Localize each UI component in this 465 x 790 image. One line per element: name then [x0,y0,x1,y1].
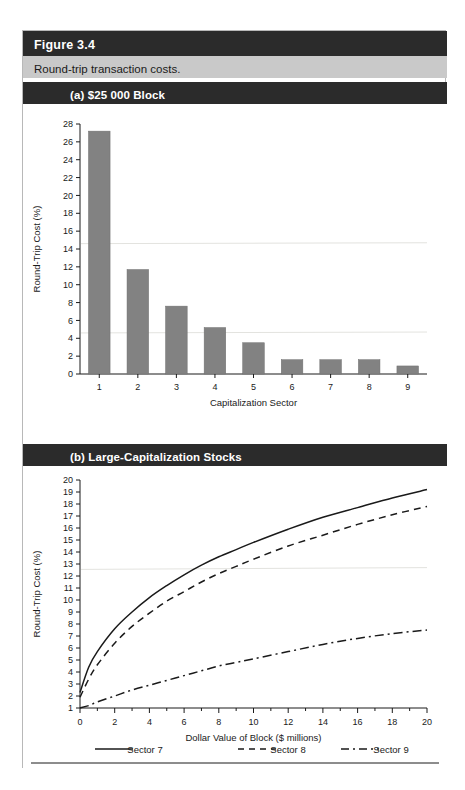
svg-text:20: 20 [63,191,73,201]
curve-sector-9 [80,630,427,708]
svg-text:8: 8 [68,298,73,308]
figure-caption-bar: Round-trip transaction costs. [23,56,447,78]
chart-a-xtick: 3 [174,382,179,392]
svg-text:3: 3 [68,679,73,689]
legend-label-sector-8: Sector 8 [270,744,305,755]
svg-text:22: 22 [63,173,73,183]
svg-text:4: 4 [68,667,73,677]
svg-text:4: 4 [68,333,73,343]
page-canvas: Figure 3.4 Round-trip transaction costs.… [0,0,465,790]
figure-number-label: Figure 3.4 [34,38,95,52]
bar-chart-svg: 0246810121416182022242628Round-Trip Cost… [23,104,447,444]
bar-sector-3 [166,306,188,374]
svg-text:5: 5 [68,655,73,665]
svg-text:19: 19 [63,487,73,497]
chart-b-xtick: 18 [387,717,397,727]
bar-sector-2 [127,270,149,374]
panel-a-header: (a) $25 000 Block [23,82,447,104]
chart-b-xtick: 16 [353,717,363,727]
curve-sector-8 [80,506,427,697]
svg-text:18: 18 [63,499,73,509]
chart-a-xtick: 6 [290,382,295,392]
line-chart-svg: 1234567891011121314151617181920Round-Tri… [23,466,447,769]
panel-a-label: (a) $25 000 Block [70,89,165,101]
svg-text:8: 8 [68,619,73,629]
chart-b-xlabel: Dollar Value of Block ($ millions) [185,732,321,743]
chart-b-xtick: 6 [182,717,187,727]
svg-text:1: 1 [68,703,73,713]
svg-text:24: 24 [63,155,73,165]
legend-label-sector-7: Sector 7 [127,744,162,755]
chart-a-xtick: 9 [405,382,410,392]
svg-text:2: 2 [68,351,73,361]
svg-text:16: 16 [63,226,73,236]
svg-text:26: 26 [63,137,73,147]
svg-text:10: 10 [63,595,73,605]
svg-text:6: 6 [68,643,73,653]
svg-text:12: 12 [63,571,73,581]
bar-sector-8 [358,360,380,374]
bar-sector-6 [281,360,303,374]
svg-text:16: 16 [63,523,73,533]
svg-text:13: 13 [63,559,73,569]
svg-text:0: 0 [68,369,73,379]
panel-b-header: (b) Large-Capitalization Stocks [23,444,447,466]
chart-b-xtick: 12 [283,717,293,727]
chart-b-line-chart: 1234567891011121314151617181920Round-Tri… [23,466,447,769]
chart-a-bar-chart: 0246810121416182022242628Round-Trip Cost… [23,104,447,444]
bar-sector-9 [397,366,419,374]
svg-text:20: 20 [63,475,73,485]
chart-b-xtick: 2 [112,717,117,727]
svg-text:17: 17 [63,511,73,521]
svg-text:28: 28 [63,119,73,129]
svg-text:15: 15 [63,535,73,545]
chart-a-xtick: 1 [97,382,102,392]
chart-a-xlabel: Capitalization Sector [210,397,297,408]
bar-sector-4 [204,328,226,374]
chart-a-xtick: 4 [212,382,217,392]
figure-number-bar: Figure 3.4 [23,31,447,56]
svg-text:9: 9 [68,607,73,617]
svg-text:14: 14 [63,547,73,557]
legend-label-sector-9: Sector 9 [373,744,408,755]
curve-sector-7 [80,490,427,693]
chart-b-xtick: 10 [248,717,258,727]
svg-text:14: 14 [63,244,73,254]
chart-a-xtick: 5 [251,382,256,392]
bar-sector-7 [320,360,342,374]
chart-a-ylabel: Round-Trip Cost (%) [31,206,42,293]
panel-b-label: (b) Large-Capitalization Stocks [70,451,242,463]
chart-a-xtick: 7 [328,382,333,392]
svg-text:2: 2 [68,691,73,701]
chart-b-xtick: 0 [77,717,82,727]
figure-caption-label: Round-trip transaction costs. [34,63,180,75]
chart-b-ylabel: Round-Trip Cost (%) [31,551,42,638]
svg-text:11: 11 [64,583,73,593]
svg-text:18: 18 [63,208,73,218]
svg-text:12: 12 [63,262,73,272]
bar-sector-5 [243,343,265,374]
chart-b-xtick: 20 [422,717,432,727]
svg-text:7: 7 [68,631,73,641]
chart-b-xtick: 14 [318,717,328,727]
chart-b-axes [80,480,427,708]
svg-text:6: 6 [68,316,73,326]
chart-a-xtick: 8 [367,382,372,392]
bar-sector-1 [88,131,110,374]
svg-text:10: 10 [63,280,73,290]
chart-a-xtick: 2 [135,382,140,392]
figure-container: Figure 3.4 Round-trip transaction costs.… [22,30,446,768]
chart-b-xtick: 4 [147,717,152,727]
chart-b-xtick: 8 [216,717,221,727]
